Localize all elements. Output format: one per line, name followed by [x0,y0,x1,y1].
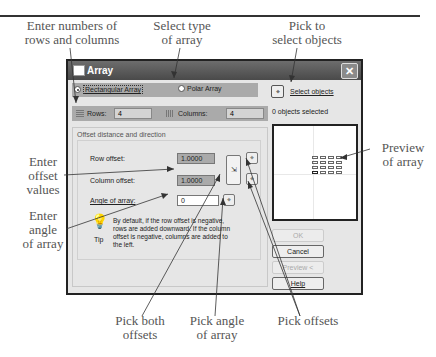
rows-label: Rows: [87,110,106,117]
callout-pick-both: Pick both offsets [110,314,170,342]
callout-line: Preview [370,141,436,155]
callout-line: Pick angle [184,314,250,328]
columns-input[interactable]: 4 [226,108,264,119]
pick-both-offsets-icon: ⇲ [231,166,237,173]
callout-select-objects: Pick to select objects [262,19,352,47]
callout-line: of array [16,237,70,251]
preview-cell [312,156,318,159]
preview-cell [312,166,318,169]
pick-row-offset-button[interactable]: ⌖ [246,152,258,164]
rectangular-array-label: Rectangular Array [83,85,143,94]
offset-inner-box: Row offset: 1.0000 Column offset: 1.0000… [77,140,261,260]
array-dialog: Array ✕ Rectangular Array Polar Array Ro… [66,59,363,295]
ok-button[interactable]: OK [272,229,324,242]
preview-button[interactable]: Preview < [272,261,324,274]
callout-line: values [18,183,68,197]
callout-line: angle [16,223,70,237]
preview-cell [320,156,326,159]
callout-offset-values: Enter offset values [18,155,68,197]
cancel-button[interactable]: Cancel [272,245,324,258]
callout-line: Pick to [262,19,352,33]
callout-line: Enter numbers of [14,19,130,33]
callout-rows-columns: Enter numbers of rows and columns [14,19,130,47]
preview-cell [336,161,342,164]
pick-icon: ⌖ [250,175,254,182]
callout-line: Select type [142,19,222,33]
preview-cell [328,166,334,169]
radio-selected-icon [74,86,81,93]
select-objects-label[interactable]: Select objects [290,88,334,95]
callout-line: Pick offsets [268,314,348,328]
preview-cell [320,171,326,174]
offset-group: Offset distance and direction Row offset… [72,127,268,287]
callout-preview: Preview of array [370,141,436,169]
callout-line: select objects [262,33,352,47]
tip-label: Tip [94,236,103,243]
app-icon [73,65,85,76]
preview-cell [312,161,318,164]
polar-array-radio[interactable]: Polar Array [178,85,222,92]
objects-selected-status: 0 objects selected [272,108,328,115]
pick-both-offsets-button[interactable]: ⇲ [226,155,241,185]
callout-line: offsets [110,328,170,342]
callout-line: Pick both [110,314,170,328]
preview-cell [328,161,334,164]
radio-unselected-icon [178,85,185,92]
callout-pick-angle: Pick angle of array [184,314,250,342]
callout-line: Enter [18,155,68,169]
angle-label: Angle of array: [90,197,136,204]
angle-input[interactable]: 0 [177,195,219,206]
pick-icon: ⌖ [250,154,254,161]
preview-cell-origin [312,171,318,174]
preview-cell [336,171,342,174]
columns-label: Columns: [178,110,208,117]
callout-line: of array [142,33,222,47]
title-bar[interactable]: Array ✕ [68,61,361,80]
preview-axis-h [274,174,356,175]
row-offset-input[interactable]: 1.0000 [177,153,215,164]
preview-cell [336,156,342,159]
select-objects-button[interactable]: ⌖ [271,85,284,98]
callout-line: rows and columns [14,33,130,47]
pick-column-offset-button[interactable]: ⌖ [246,173,258,185]
array-type-bar: Rectangular Array Polar Array [72,83,258,97]
row-offset-label: Row offset: [90,155,125,162]
preview-cell [336,166,342,169]
preview-cell [328,171,334,174]
rows-icon [76,110,84,117]
callout-line: of array [184,328,250,342]
callout-line: offset [18,169,68,183]
preview-cell [320,166,326,169]
rows-input[interactable]: 4 [114,108,152,119]
help-button[interactable]: Help [272,277,324,290]
callout-angle: Enter angle of array [16,209,70,251]
array-preview [272,124,358,221]
lightbulb-icon: 💡 [91,213,108,229]
page-rule [0,15,420,17]
polar-array-label: Polar Array [187,85,222,92]
preview-grid [312,156,342,174]
pick-icon: ⌖ [227,196,231,203]
close-button[interactable]: ✕ [341,63,358,79]
pick-angle-button[interactable]: ⌖ [223,194,235,206]
rows-columns-bar: Rows: 4 Columns: 4 [72,106,268,121]
callout-pick-offsets: Pick offsets [268,314,348,328]
offset-group-title: Offset distance and direction [77,131,166,138]
callout-array-type: Select type of array [142,19,222,47]
tip-text: By default, if the row offset is negativ… [113,217,231,249]
callout-line: of array [370,155,436,169]
column-offset-label: Column offset: [90,177,135,184]
column-offset-input[interactable]: 1.0000 [177,175,215,186]
select-objects-icon: ⌖ [276,88,280,95]
callout-line: Enter [16,209,70,223]
dialog-title: Array [87,65,113,76]
columns-icon [166,110,174,117]
preview-cell [320,161,326,164]
preview-cell [328,156,334,159]
rectangular-array-radio[interactable]: Rectangular Array [74,85,143,94]
